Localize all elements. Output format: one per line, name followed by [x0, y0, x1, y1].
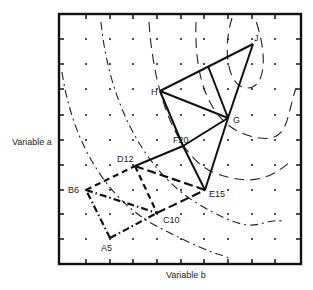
- grid-dot: [203, 213, 205, 215]
- grid-dot: [227, 189, 229, 191]
- vertex-label-h: H: [151, 87, 158, 97]
- grid-dot: [85, 38, 87, 40]
- edge-a5-b6: [86, 190, 110, 238]
- edge-c10-e15: [157, 190, 205, 213]
- grid-dot: [109, 189, 111, 191]
- vertex-label-d12: D12: [117, 154, 134, 164]
- grid-dot: [227, 238, 229, 240]
- edge-a5-c10: [110, 213, 157, 238]
- grid-dot: [203, 88, 205, 90]
- vertex-label-c10: C10: [163, 215, 180, 225]
- grid-dot: [109, 139, 111, 141]
- vertex-label-a5: A5: [101, 243, 112, 253]
- grid-dot: [109, 164, 111, 166]
- grid-dot: [85, 164, 87, 166]
- grid-dot: [251, 213, 253, 215]
- grid-dot: [109, 114, 111, 116]
- grid-dot: [132, 38, 134, 40]
- grid-dot: [274, 114, 276, 116]
- grid-dot: [85, 88, 87, 90]
- grid-dot: [180, 38, 182, 40]
- grid-dot: [85, 238, 87, 240]
- edge-b6-d12: [86, 166, 135, 190]
- grid-dot: [203, 164, 205, 166]
- grid-dot: [132, 189, 134, 191]
- grid-dot: [227, 164, 229, 166]
- x-axis-label: Variable b: [166, 270, 206, 280]
- grid-dot: [156, 164, 158, 166]
- grid-dot: [109, 88, 111, 90]
- grid-dot: [132, 88, 134, 90]
- grid-dot: [156, 63, 158, 65]
- contour-2: [101, 22, 283, 225]
- grid-dot: [227, 139, 229, 141]
- grid-dot: [156, 139, 158, 141]
- grid-dot: [274, 164, 276, 166]
- grid-dot: [274, 189, 276, 191]
- grid-dot: [251, 189, 253, 191]
- grid-dot: [85, 213, 87, 215]
- grid-dot: [227, 88, 229, 90]
- vertex-labels: A5B6C10D12E15F20GHJ: [68, 33, 259, 253]
- y-axis-label: Variable a: [12, 137, 52, 147]
- edge-e15-g: [205, 118, 228, 190]
- grid-dot: [227, 63, 229, 65]
- grid-dot: [85, 139, 87, 141]
- grid-dot: [274, 88, 276, 90]
- grid-dot: [180, 114, 182, 116]
- grid-dot: [109, 213, 111, 215]
- grid-dot: [251, 238, 253, 240]
- grid-dot: [227, 38, 229, 40]
- grid-dot: [180, 238, 182, 240]
- grid-dot: [85, 63, 87, 65]
- grid-dot: [203, 63, 205, 65]
- grid-dot: [251, 38, 253, 40]
- grid-dot: [251, 63, 253, 65]
- grid-dot: [203, 114, 205, 116]
- grid-dot: [274, 139, 276, 141]
- grid-dot: [132, 238, 134, 240]
- grid-dot: [274, 213, 276, 215]
- grid-dot: [109, 63, 111, 65]
- vertex-label-j: J: [254, 33, 259, 43]
- grid-dot: [156, 114, 158, 116]
- contour-diagram: A5B6C10D12E15F20GHJ Variable a Variable …: [0, 0, 313, 290]
- grid-dot: [251, 114, 253, 116]
- grid-dot: [203, 238, 205, 240]
- grid-dot: [180, 189, 182, 191]
- grid-dot: [180, 88, 182, 90]
- vertex-label-g: G: [233, 115, 240, 125]
- grid-dot: [251, 88, 253, 90]
- grid-dot: [251, 164, 253, 166]
- grid-dot: [132, 114, 134, 116]
- grid-dot: [274, 38, 276, 40]
- grid-dot: [227, 213, 229, 215]
- vertex-label-f20: F20: [173, 135, 189, 145]
- grid-dot: [180, 213, 182, 215]
- grid-dot: [274, 238, 276, 240]
- grid-dot: [156, 189, 158, 191]
- grid-dot: [274, 63, 276, 65]
- grid-dot: [85, 114, 87, 116]
- grid-dot: [132, 139, 134, 141]
- grid-dot: [203, 139, 205, 141]
- contour-4: [196, 22, 296, 138]
- contour-5-inner: [227, 18, 263, 88]
- vertex-label-b6: B6: [68, 185, 79, 195]
- grid-dot: [132, 63, 134, 65]
- grid-dot: [251, 139, 253, 141]
- grid-dot: [156, 38, 158, 40]
- grid-dot: [180, 63, 182, 65]
- grid-dot: [203, 38, 205, 40]
- contour-1-outer: [62, 72, 232, 259]
- grid-dot: [132, 213, 134, 215]
- grid-dot: [180, 164, 182, 166]
- vertex-label-e15: E15: [209, 189, 225, 199]
- edge-d12-f20: [135, 146, 183, 166]
- grid-dot: [156, 238, 158, 240]
- grid-dot: [109, 38, 111, 40]
